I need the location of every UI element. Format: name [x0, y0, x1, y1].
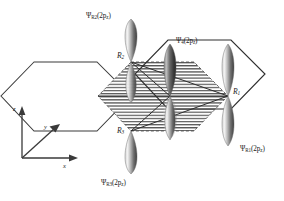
- psi-end: ): [123, 179, 125, 187]
- diagram-canvas: [0, 0, 284, 201]
- label-psi-r2: ΨR2(2pz): [86, 13, 111, 20]
- psi-end: ): [262, 145, 264, 153]
- axis-label-y: y: [44, 124, 47, 131]
- axis-label-z: z: [13, 106, 15, 113]
- psi-mid: (2p: [112, 179, 121, 187]
- label-psi-r3: ΨR3(2pz): [101, 180, 126, 187]
- psi-end: ): [108, 12, 110, 20]
- orbital-psi-r3: [125, 89, 137, 174]
- psi-mid: (2p: [97, 12, 106, 20]
- axis-label-x: x: [63, 163, 66, 170]
- label-psi-4: Ψ4(2pz): [176, 38, 197, 45]
- r-index: 3: [122, 129, 125, 135]
- psi-end: ): [195, 37, 197, 45]
- vertex-label-r1: R1: [233, 88, 240, 96]
- axis-triad: [19, 106, 78, 161]
- vertex-label-r3: R3: [117, 127, 124, 135]
- r-index: 1: [238, 90, 241, 96]
- orbital-diagram-figure: ΨR2(2pz) Ψ4(2pz) ΨR3(2pz) ΨR1(2pz) R2 R3…: [0, 0, 284, 201]
- psi-mid: (2p: [184, 37, 193, 45]
- vertex-label-r2: R2: [117, 52, 124, 60]
- r-index: 2: [122, 54, 125, 60]
- label-psi-r1: ΨR1(2pz): [240, 146, 265, 153]
- psi-mid: (2p: [251, 145, 260, 153]
